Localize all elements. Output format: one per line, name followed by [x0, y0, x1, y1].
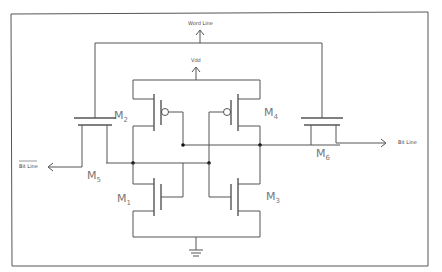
m6-label: M6: [316, 147, 331, 162]
bit-line-bar-label: Bit Line: [19, 163, 38, 169]
m2-bubble-icon: [162, 109, 169, 116]
bit-line-label: Bit Line: [398, 139, 417, 145]
sram-circuit-diagram: Word Line Vdd M2 M4 M1 M3: [0, 0, 442, 272]
vdd-label: Vdd: [191, 57, 201, 63]
m5-label: M5: [87, 169, 101, 184]
m4-label: M4: [264, 106, 279, 121]
m3-label: M3: [266, 190, 280, 205]
vdd-rail: [133, 80, 260, 99]
m4-bubble-icon: [224, 109, 231, 116]
outer-frame: [11, 12, 428, 266]
word-line-label: Word Line: [188, 20, 213, 26]
m2-label: M2: [114, 109, 128, 124]
m1-label: M1: [117, 192, 131, 207]
ground-icon: [189, 250, 203, 256]
